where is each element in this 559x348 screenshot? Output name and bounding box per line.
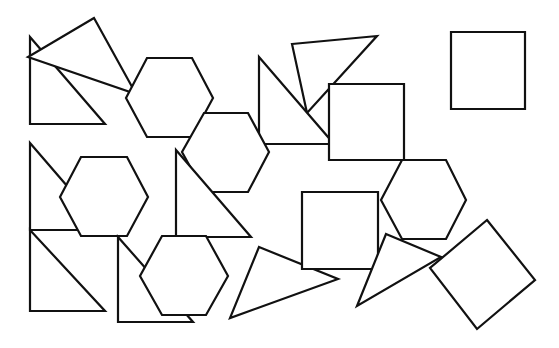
shapes-canvas	[0, 0, 559, 348]
hexagon-mid-right	[381, 160, 466, 239]
square-top-mid	[329, 84, 404, 160]
square-mid-right	[302, 192, 378, 269]
triangle-bottom-left	[30, 230, 105, 311]
square-top-right	[451, 32, 525, 109]
